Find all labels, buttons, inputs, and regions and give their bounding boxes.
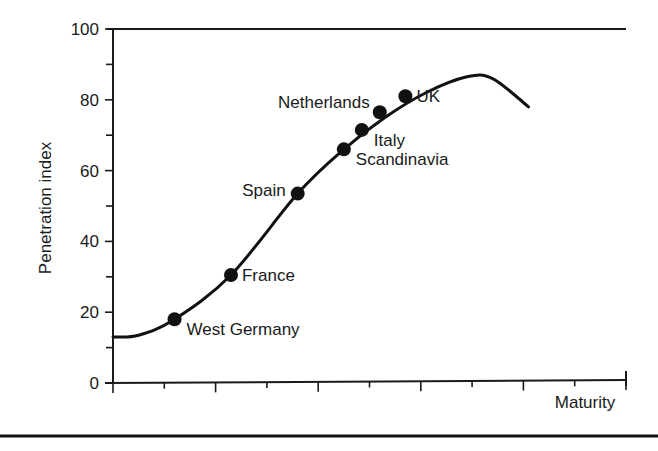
data-label-scandinavia: Scandinavia (356, 150, 449, 169)
data-point-west-germany (168, 312, 182, 326)
x-axis-title: Maturity (555, 393, 616, 412)
data-point-france (224, 268, 238, 282)
y-axis-title: Penetration index (36, 141, 55, 274)
curve-layer (113, 75, 529, 337)
y-tick-label: 80 (80, 91, 99, 110)
axes: 020406080100 (71, 20, 626, 393)
data-point-netherlands (373, 105, 387, 119)
y-tick-label: 40 (80, 232, 99, 251)
y-tick-label: 100 (71, 20, 99, 39)
y-tick-label: 60 (80, 162, 99, 181)
data-label-west-germany: West Germany (187, 320, 301, 339)
data-point-uk (398, 89, 412, 103)
data-label-netherlands: Netherlands (278, 93, 370, 112)
data-point-scandinavia (337, 142, 351, 156)
y-tick-label: 0 (90, 374, 99, 393)
data-label-spain: Spain (242, 181, 285, 200)
points-layer: West GermanyFranceSpainScandinaviaItalyN… (168, 87, 449, 339)
y-tick-label: 20 (80, 303, 99, 322)
data-label-uk: UK (416, 87, 440, 106)
data-label-france: France (242, 266, 295, 285)
data-point-italy (355, 123, 369, 137)
penetration-chart: 020406080100 West GermanyFranceSpainScan… (0, 0, 658, 451)
data-label-italy: Italy (374, 131, 406, 150)
x-axis-line (105, 380, 626, 383)
series-line-penetration (113, 75, 529, 337)
data-point-spain (291, 187, 305, 201)
